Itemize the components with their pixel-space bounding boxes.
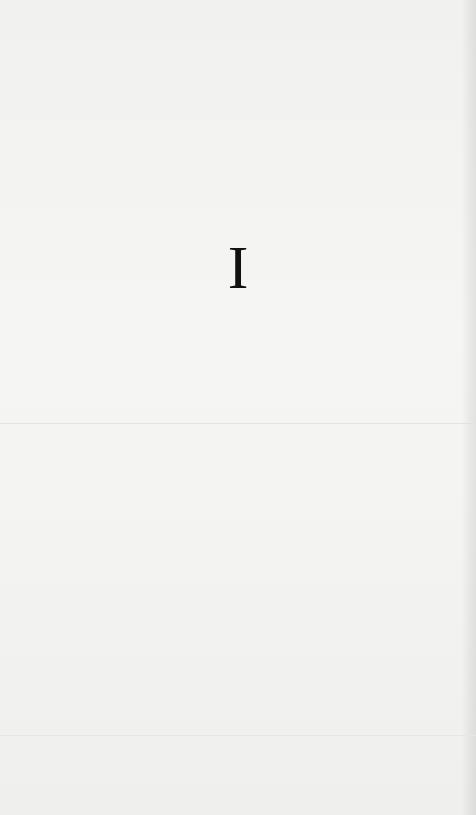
chapter-numeral: I [0, 236, 476, 298]
scan-line-divider-bottom [0, 735, 476, 736]
scanned-page: I [0, 0, 476, 815]
scan-line-divider [0, 423, 476, 424]
